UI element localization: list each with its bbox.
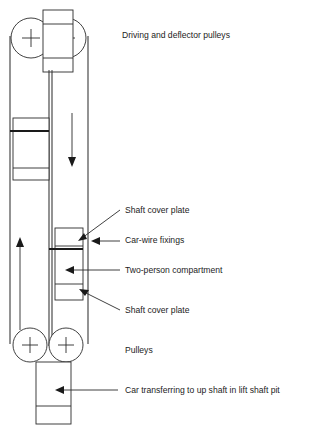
leader-shaft-cover-plate-bottom (84, 292, 120, 310)
label-car-transferring: Car transferring to up shaft in lift sha… (125, 385, 280, 395)
up-arrow-car-shaft (16, 237, 24, 330)
label-shaft-cover-plate-top: Shaft cover plate (125, 205, 190, 215)
car-compartment-group (49, 228, 83, 300)
bottom-pulley-group (13, 328, 83, 362)
up-arrow-head (16, 237, 24, 247)
label-shaft-cover-plate-bottom: Shaft cover plate (125, 305, 190, 315)
counterweight-box (13, 118, 49, 180)
label-group: Driving and deflector pulleys Shaft cove… (122, 30, 280, 395)
car-in-pit-group (36, 362, 71, 424)
counterweight-group (10, 118, 49, 180)
car-in-pit-box (36, 362, 71, 424)
machine-room-box-group (43, 10, 73, 72)
label-driving-and-deflector-pulleys: Driving and deflector pulleys (122, 30, 230, 40)
down-arrow-counterweight-shaft (68, 113, 76, 167)
diagram-canvas: Driving and deflector pulleys Shaft cove… (0, 0, 311, 432)
car-compartment-box (55, 228, 83, 300)
label-car-wire-fixings: Car-wire fixings (125, 235, 184, 245)
machine-room-box (43, 10, 73, 72)
leader-arrowhead-car-wire-fixings (91, 237, 100, 245)
lift-shaft-diagram: Driving and deflector pulleys Shaft cove… (0, 0, 311, 432)
label-pulleys: Pulleys (125, 345, 153, 355)
label-two-person-compartment: Two-person compartment (125, 265, 223, 275)
down-arrow-head (68, 157, 76, 167)
